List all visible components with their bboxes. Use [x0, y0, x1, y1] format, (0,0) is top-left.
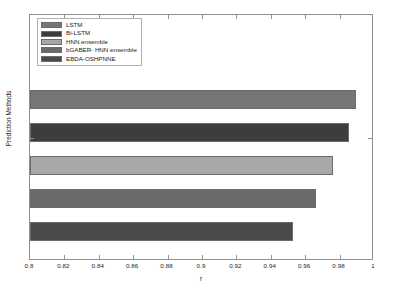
x-tick-0.9: [202, 255, 203, 259]
x-tick-label-0.86: 0.86: [126, 262, 138, 269]
y-axis-label: Prediction Methods: [5, 74, 12, 164]
x-tick-top-0.96: [305, 15, 306, 19]
x-tick-0.86: [133, 255, 134, 259]
bar-ebda-oshpnne: [30, 222, 293, 241]
y-tick: [30, 138, 34, 139]
x-tick-label-0.84: 0.84: [92, 262, 104, 269]
legend-label: Bi-LSTM: [66, 29, 90, 37]
legend-swatch-icon: [41, 47, 62, 53]
x-tick-top-0.92: [236, 15, 237, 19]
legend-item: bGABER- HNN ensemble: [41, 46, 137, 54]
bar-lstm: [30, 90, 356, 109]
x-tick-label-0.88: 0.88: [160, 262, 172, 269]
bar-bi-lstm: [30, 123, 349, 142]
legend-swatch-icon: [41, 22, 62, 28]
bar-chart-figure: Prediction Methods 0.80.820.840.860.880.…: [0, 0, 396, 300]
legend-label: LSTM: [66, 21, 83, 29]
x-tick-label-0.82: 0.82: [57, 262, 69, 269]
x-tick-label-0.8: 0.8: [25, 262, 34, 269]
x-tick-0.92: [236, 255, 237, 259]
x-tick-label-0.94: 0.94: [264, 262, 276, 269]
legend-item: Bi-LSTM: [41, 29, 137, 37]
legend-swatch-icon: [41, 56, 62, 62]
x-tick-top-0.88: [168, 15, 169, 19]
legend-label: bGABER- HNN ensemble: [66, 46, 137, 54]
chart-legend: LSTMBi-LSTMHNN ensemblebGABER- HNN ensem…: [37, 18, 142, 66]
x-tick-label-0.92: 0.92: [229, 262, 241, 269]
legend-item: EBDA-OSHPNNE: [41, 55, 137, 63]
x-tick-0.82: [64, 255, 65, 259]
x-axis-label: r: [29, 275, 373, 282]
x-tick-0.88: [168, 255, 169, 259]
x-tick-top-0.94: [271, 15, 272, 19]
x-tick-label-0.9: 0.9: [197, 262, 206, 269]
x-tick-0.96: [305, 255, 306, 259]
x-tick-0.94: [271, 255, 272, 259]
bar-hnn-ensemble: [30, 156, 333, 175]
x-tick-top-0.9: [202, 15, 203, 19]
legend-item: LSTM: [41, 21, 137, 29]
x-tick-label-1: 1: [371, 262, 375, 269]
x-tick-0.84: [99, 255, 100, 259]
legend-swatch-icon: [41, 39, 62, 45]
legend-item: HNN ensemble: [41, 38, 137, 46]
x-tick-label-0.98: 0.98: [332, 262, 344, 269]
x-tick-top-0.98: [340, 15, 341, 19]
x-tick-label-0.96: 0.96: [298, 262, 310, 269]
x-tick-0.98: [340, 255, 341, 259]
legend-label: HNN ensemble: [66, 38, 108, 46]
y-tick-right: [368, 138, 372, 139]
legend-label: EBDA-OSHPNNE: [66, 55, 116, 63]
legend-swatch-icon: [41, 31, 62, 37]
bar-bgaber-hnn-ensemble: [30, 189, 316, 208]
